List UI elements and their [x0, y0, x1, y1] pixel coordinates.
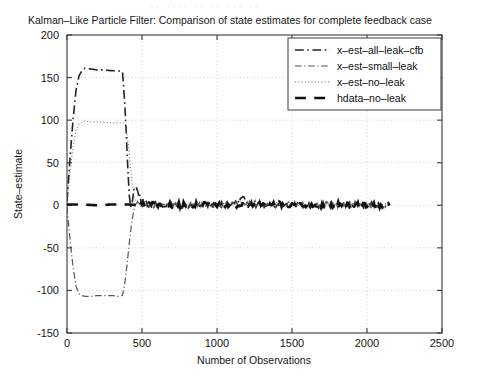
- data-series-3: [67, 121, 390, 208]
- y-tick-label: -50: [43, 242, 59, 254]
- legend-label-1[interactable]: x–est–all–leak–cfb: [337, 44, 424, 56]
- x-tick-label: 2000: [355, 337, 379, 349]
- y-tick-label: 0: [53, 199, 59, 211]
- y-tick-labels: -150-100-50050100150200: [37, 29, 59, 339]
- legend-label-2[interactable]: x–est–small–leak: [337, 60, 418, 72]
- chart-plot: 05001000150020002500 -150-100-5005010015…: [0, 0, 480, 376]
- x-tick-label: 500: [133, 337, 151, 349]
- y-tick-label: 200: [41, 29, 59, 41]
- y-tick-label: 100: [41, 114, 59, 126]
- y-tick-label: 150: [41, 72, 59, 84]
- legend-label-4[interactable]: hdata–no–leak: [337, 92, 407, 104]
- figure-canvas: ·· ···· ·· ·· ··· ··· Kalman–Like Partic…: [0, 0, 480, 376]
- y-axis-title: State–estimate: [12, 149, 24, 219]
- x-tick-label: 0: [64, 337, 70, 349]
- legend-label-3[interactable]: x–est–no–leak: [337, 76, 405, 88]
- y-tick-label: -100: [37, 284, 59, 296]
- x-tick-label: 2500: [430, 337, 454, 349]
- y-tick-label: -150: [37, 327, 59, 339]
- x-axis-title: Number of Observations: [197, 354, 311, 366]
- y-tick-label: 50: [47, 157, 59, 169]
- x-tick-labels: 05001000150020002500: [64, 337, 454, 349]
- x-tick-label: 1000: [205, 337, 229, 349]
- x-tick-label: 1500: [280, 337, 304, 349]
- chart-legend[interactable]: x–est–all–leak–cfbx–est–small–leakx–est–…: [288, 38, 441, 110]
